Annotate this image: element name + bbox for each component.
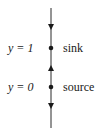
equilibrium-type-label: sink xyxy=(63,41,83,55)
equilibrium-dot-source xyxy=(49,85,54,90)
arrow-down-icon xyxy=(48,103,54,109)
equilibrium-value-label: y = 1 xyxy=(7,41,33,55)
equilibrium-type-label: source xyxy=(63,80,94,94)
equilibrium-dot-sink xyxy=(49,46,54,51)
arrow-down-icon xyxy=(48,24,54,30)
arrow-up-icon xyxy=(48,65,54,71)
equilibrium-value-label: y = 0 xyxy=(7,80,33,94)
phase-line-diagram: y = 1 sink y = 0 source xyxy=(0,0,98,138)
